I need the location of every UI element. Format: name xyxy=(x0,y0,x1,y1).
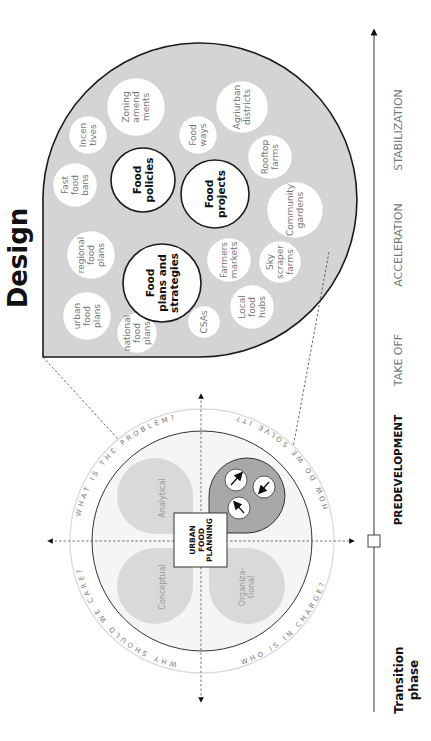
design-title: Design xyxy=(3,208,33,309)
timeline-phase-acceleration: ACCELERATION xyxy=(392,203,405,286)
timeline-heading-text: Transitionphase xyxy=(392,646,421,713)
timeline-current-marker[interactable] xyxy=(368,535,380,547)
bubble-label: Foodways xyxy=(188,123,208,146)
timeline-phase-stabilization: STABILIZATION xyxy=(392,89,405,171)
timeline-phases: PREDEVELOPMENTTAKE OFFACCELERATIONSTABIL… xyxy=(392,89,405,525)
bubble-label: Agriurbandistricts xyxy=(232,85,252,129)
bubble-label: Rooftopfarms xyxy=(260,139,280,174)
framework: URBANFOODPLANNING Analytical Conceptual … xyxy=(50,396,352,700)
quadrant-label-conceptual: Conceptual xyxy=(158,564,167,609)
bubble-label: Fastfoodbans xyxy=(60,174,90,196)
quadrant-label-analytical: Analytical xyxy=(158,478,167,517)
bubble-label: Incentives xyxy=(78,123,98,148)
timeline: PREDEVELOPMENTTAKE OFFACCELERATIONSTABIL… xyxy=(368,32,421,714)
diagram-canvas: Design ZoningamendmentsIncentivesFastfoo… xyxy=(0,0,431,741)
timeline-heading: Transitionphase xyxy=(392,646,421,713)
bubble-label: Localfoodhubs xyxy=(237,295,267,318)
timeline-phase-predevelopment: PREDEVELOPMENT xyxy=(392,414,404,525)
bubble-label: Zoningamendments xyxy=(121,91,151,122)
bubble-label: Farmersmarkets xyxy=(219,241,239,278)
bubble-label: urbanfoodplans xyxy=(72,303,102,329)
bubble-label: CSAs xyxy=(199,310,209,333)
timeline-phase-take-off: TAKE OFF xyxy=(392,334,405,387)
design-title-text: Design xyxy=(3,208,33,309)
